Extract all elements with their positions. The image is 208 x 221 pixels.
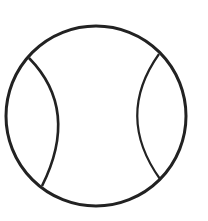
- left-seam: [29, 58, 58, 186]
- tennis-ball-icon: [0, 0, 208, 221]
- right-seam: [137, 54, 160, 179]
